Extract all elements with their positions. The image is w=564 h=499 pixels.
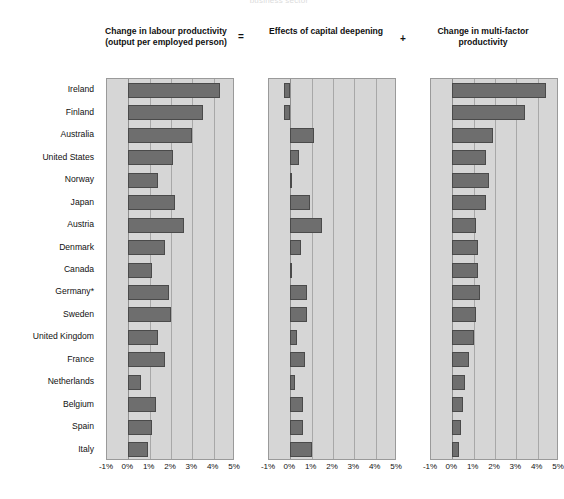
panel-title-line-2: productivity xyxy=(410,37,556,48)
bar xyxy=(128,352,164,367)
x-axis-multi-factor-productivity: -1%0%1%2%3%4%5% xyxy=(430,462,558,476)
panel-title-capital-deepening: Effects of capital deepening xyxy=(248,26,404,37)
bar xyxy=(452,105,525,120)
x-tick-label: -1% xyxy=(99,462,113,471)
bar xyxy=(452,330,473,345)
country-label-norway: Norway xyxy=(65,174,94,184)
country-label-italy: Italy xyxy=(78,444,94,454)
x-tick-label: 5% xyxy=(552,462,564,471)
country-label-ireland: Ireland xyxy=(68,84,94,94)
gridline-3 xyxy=(354,79,355,459)
country-label-column: IrelandFinlandAustraliaUnited StatesNorw… xyxy=(0,78,100,460)
bar xyxy=(290,150,299,165)
bar xyxy=(290,285,307,300)
gridline-2 xyxy=(495,79,496,459)
country-label-finland: Finland xyxy=(66,107,94,117)
country-label-spain: Spain xyxy=(72,421,94,431)
bar xyxy=(290,173,292,188)
country-label-united-states: United States xyxy=(42,152,94,162)
country-label-sweden: Sweden xyxy=(63,309,94,319)
bar xyxy=(128,105,203,120)
gridline-3 xyxy=(516,79,517,459)
gridline-4 xyxy=(538,79,539,459)
bar xyxy=(452,263,478,278)
plus-operator: + xyxy=(396,33,410,44)
bar xyxy=(290,442,311,457)
x-axis-labour-productivity: -1%0%1%2%3%4%5% xyxy=(106,462,234,476)
gridline-4 xyxy=(376,79,377,459)
chart-panel-labour-productivity xyxy=(106,78,234,460)
country-label-netherlands: Netherlands xyxy=(48,376,94,386)
x-tick-label: 2% xyxy=(326,462,338,471)
bar xyxy=(452,375,465,390)
chart-panel-multi-factor-productivity xyxy=(430,78,558,460)
bar xyxy=(452,218,475,233)
equals-operator: = xyxy=(234,31,248,42)
x-tick-label: -1% xyxy=(423,462,437,471)
x-tick-label: 0% xyxy=(446,462,458,471)
country-label-australia: Australia xyxy=(61,129,94,139)
bar xyxy=(290,352,305,367)
bar xyxy=(128,420,151,435)
country-label-united-kingdom: United Kingdom xyxy=(33,331,94,341)
panel-title-line-2: (output per employed person) xyxy=(96,37,236,48)
country-label-austria: Austria xyxy=(67,219,94,229)
country-label-germany: Germany* xyxy=(55,286,94,296)
bar xyxy=(290,375,294,390)
bar xyxy=(128,150,173,165)
bar xyxy=(452,128,493,143)
bar xyxy=(452,352,469,367)
bar xyxy=(290,263,292,278)
bar xyxy=(128,173,158,188)
panel-title-multi-factor-productivity: Change in multi-factor productivity xyxy=(410,26,556,48)
x-axis-capital-deepening: -1%0%1%2%3%4%5% xyxy=(268,462,396,476)
bar xyxy=(452,150,486,165)
bar xyxy=(128,375,141,390)
panel-title-line-1: Change in labour productivity xyxy=(96,26,236,37)
bar xyxy=(128,330,158,345)
bar xyxy=(452,173,488,188)
chart-panel-capital-deepening xyxy=(268,78,396,460)
bar xyxy=(290,420,303,435)
country-label-france: France xyxy=(67,354,94,364)
gridline-2 xyxy=(333,79,334,459)
x-tick-label: 5% xyxy=(228,462,240,471)
country-label-canada: Canada xyxy=(64,264,94,274)
x-tick-label: 2% xyxy=(488,462,500,471)
country-label-belgium: Belgium xyxy=(63,399,94,409)
bar xyxy=(290,218,322,233)
bar xyxy=(452,240,478,255)
bar xyxy=(128,195,175,210)
bar xyxy=(290,307,307,322)
bar xyxy=(452,307,475,322)
x-tick-label: 3% xyxy=(186,462,198,471)
panel-title-line-1: Effects of capital deepening xyxy=(248,26,404,37)
x-tick-label: 3% xyxy=(348,462,360,471)
bar xyxy=(128,240,164,255)
bar xyxy=(128,128,192,143)
bar xyxy=(128,285,169,300)
bar xyxy=(128,442,147,457)
panel-title-labour-productivity: Change in labour productivity (output pe… xyxy=(96,26,236,48)
bar xyxy=(290,240,301,255)
x-tick-label: 5% xyxy=(390,462,402,471)
bar xyxy=(452,442,458,457)
bar xyxy=(128,397,156,412)
bar xyxy=(290,330,296,345)
bar xyxy=(290,195,309,210)
bar xyxy=(452,397,463,412)
bar xyxy=(128,83,220,98)
x-tick-label: 3% xyxy=(510,462,522,471)
x-tick-label: 1% xyxy=(305,462,317,471)
bar xyxy=(128,263,151,278)
bar xyxy=(290,397,303,412)
bar xyxy=(452,420,461,435)
bar xyxy=(284,105,290,120)
x-tick-label: 4% xyxy=(531,462,543,471)
panel-title-line-1: Change in multi-factor xyxy=(410,26,556,37)
x-tick-label: 1% xyxy=(467,462,479,471)
x-tick-label: 0% xyxy=(284,462,296,471)
country-label-denmark: Denmark xyxy=(59,242,94,252)
x-tick-label: -1% xyxy=(261,462,275,471)
x-tick-label: 4% xyxy=(207,462,219,471)
